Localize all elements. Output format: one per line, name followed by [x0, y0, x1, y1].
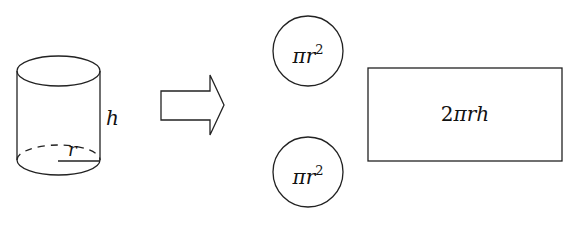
cylinder-bottom-front-arc — [17, 160, 100, 175]
bottom-circle-label: πr2 — [292, 163, 324, 189]
bottom-circle-label-base: πr — [292, 165, 317, 189]
height-label: h — [106, 106, 119, 130]
rectangle-label-variables: πrh — [453, 102, 490, 126]
radius-label: r — [68, 139, 78, 160]
cylinder — [17, 56, 100, 175]
rectangle-label: 2πrh — [441, 102, 489, 126]
bottom-circle-label-exponent: 2 — [315, 163, 323, 178]
cylinder-surface-area-diagram: h r πr2 πr2 2πrh — [0, 0, 575, 228]
cylinder-top-ellipse — [17, 56, 100, 86]
rectangle-label-coefficient: 2 — [441, 102, 454, 126]
top-circle-label: πr2 — [292, 42, 324, 68]
top-circle-label-exponent: 2 — [315, 42, 323, 57]
cylinder-bottom-back-arc-dashed — [17, 145, 100, 160]
top-circle-label-base: πr — [292, 44, 317, 68]
right-arrow-icon — [161, 75, 224, 135]
